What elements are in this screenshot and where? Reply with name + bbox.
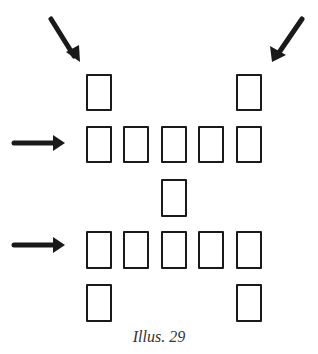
card-row2-1 <box>86 126 112 163</box>
card-row2-4 <box>198 126 224 163</box>
arrow-row4-icon <box>14 237 65 253</box>
arrow-top-left-icon <box>51 19 80 62</box>
card-row2-5 <box>236 126 262 163</box>
arrow-row2-icon <box>14 135 65 151</box>
arrows-layer <box>0 0 318 354</box>
card-row2-2 <box>123 126 149 163</box>
card-center <box>161 179 187 217</box>
card-row5-left <box>86 284 112 322</box>
caption: Illus. 29 <box>0 328 318 346</box>
card-row4-2 <box>123 231 149 269</box>
card-row2-3 <box>161 126 187 163</box>
card-row1-left <box>86 74 112 111</box>
card-row4-3 <box>161 231 187 269</box>
card-row5-right <box>236 284 262 322</box>
card-row1-right <box>236 74 262 111</box>
card-row4-5 <box>236 231 262 269</box>
card-row4-1 <box>86 231 112 269</box>
arrow-top-right-icon <box>270 19 302 62</box>
card-row4-4 <box>198 231 224 269</box>
